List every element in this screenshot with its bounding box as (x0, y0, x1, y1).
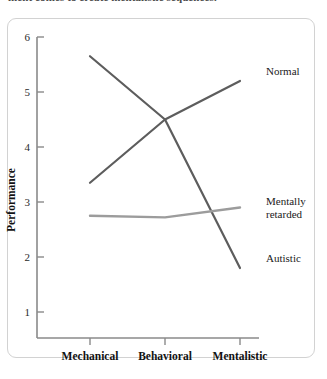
x-axis-ticks (90, 338, 240, 345)
series-label-normal-group: Normal (266, 65, 300, 77)
y-tick-label-1: 1 (25, 306, 31, 318)
y-tick-label-2: 2 (25, 251, 31, 263)
series-label-normal: Normal (266, 65, 300, 77)
axes (37, 37, 259, 338)
series-label-mentally-retarded-line1: Mentally (266, 195, 306, 207)
y-axis-title: Performance (5, 168, 17, 232)
y-tick-label-5: 5 (25, 86, 31, 98)
x-tick-label-behavioral: Behavioral (138, 350, 192, 362)
y-tick-label-3: 3 (25, 196, 31, 208)
x-axis-tick-labels: Mechanical Behavioral Mentalistic (62, 350, 268, 362)
figure-page: ment comes to create mentalistic sequenc… (0, 0, 327, 379)
y-tick-label-6: 6 (25, 31, 31, 43)
series-label-autistic-group: Autistic (266, 252, 301, 264)
y-tick-label-4: 4 (25, 141, 31, 153)
x-tick-label-mentalistic: Mentalistic (213, 350, 268, 362)
series-line-mentally-retarded (90, 208, 240, 218)
series-label-mentally-retarded-group: Mentally retarded (266, 195, 306, 220)
series-line-normal (90, 81, 240, 183)
series-line-autistic (90, 56, 240, 268)
line-chart: 6 5 4 3 2 1 Performance Mechanical Behav… (0, 0, 327, 379)
series-label-autistic: Autistic (266, 252, 301, 264)
y-axis-ticks (37, 37, 44, 312)
y-axis-tick-labels: 6 5 4 3 2 1 (25, 31, 31, 318)
x-tick-label-mechanical: Mechanical (62, 350, 119, 362)
series-label-mentally-retarded-line2: retarded (266, 208, 303, 220)
